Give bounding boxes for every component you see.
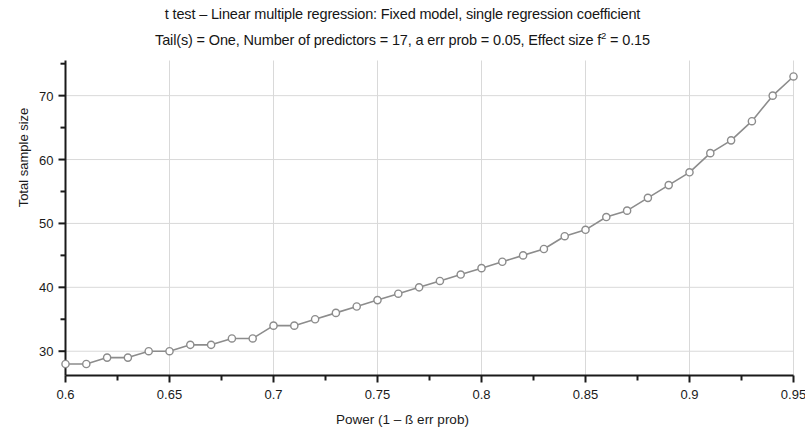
data-point-marker [457, 271, 464, 278]
x-axis-tick-label: 0.8 [472, 387, 490, 402]
data-point-marker [436, 277, 443, 284]
data-point-marker [312, 316, 319, 323]
data-point-marker [332, 309, 339, 316]
x-axis-tick-label: 0.6 [56, 387, 74, 402]
data-point-marker [624, 207, 631, 214]
data-point-marker [62, 360, 69, 367]
data-point-marker [208, 341, 215, 348]
data-point-marker [499, 258, 506, 265]
x-axis-tick-label: 0.75 [365, 387, 390, 402]
data-point-marker [644, 194, 651, 201]
data-point-marker [665, 181, 672, 188]
data-point-marker [728, 137, 735, 144]
data-point-marker [145, 348, 152, 355]
data-point-marker [540, 245, 547, 252]
series-polyline [66, 76, 794, 364]
data-point-marker [249, 335, 256, 342]
chart-container: t test – Linear multiple regression: Fix… [0, 0, 805, 438]
data-point-marker [124, 354, 131, 361]
data-point-marker [603, 213, 610, 220]
data-point-markers [62, 73, 797, 368]
data-point-marker [582, 226, 589, 233]
data-point-marker [187, 341, 194, 348]
x-axis-tick-label: 0.95 [781, 387, 805, 402]
data-series-line [66, 76, 794, 364]
data-point-marker [228, 335, 235, 342]
x-axis-tick-label: 0.9 [680, 387, 698, 402]
data-point-marker [416, 284, 423, 291]
data-point-marker [478, 265, 485, 272]
y-axis-tick-label: 40 [39, 280, 53, 295]
data-point-marker [270, 322, 277, 329]
axis-frame [66, 61, 794, 376]
data-point-marker [353, 303, 360, 310]
data-point-marker [374, 297, 381, 304]
data-point-marker [790, 73, 797, 80]
grid-lines [66, 61, 794, 376]
x-axis-tick-label: 0.65 [157, 387, 182, 402]
y-axis-tick-label: 50 [39, 216, 53, 231]
data-point-marker [561, 233, 568, 240]
y-axis-tick-label: 60 [39, 153, 53, 168]
data-point-marker [395, 290, 402, 297]
data-point-marker [686, 169, 693, 176]
data-point-marker [83, 360, 90, 367]
data-point-marker [166, 348, 173, 355]
data-point-marker [769, 92, 776, 99]
x-axis-tick-label: 0.7 [264, 387, 282, 402]
data-point-marker [291, 322, 298, 329]
data-point-marker [707, 150, 714, 157]
data-point-marker [520, 252, 527, 259]
x-axis-tick-label: 0.85 [573, 387, 598, 402]
plot-area: 30405060700.60.650.70.750.80.850.90.95 [0, 0, 805, 438]
y-axis-tick-label: 30 [39, 344, 53, 359]
axis-tick-labels: 30405060700.60.650.70.750.80.850.90.95 [39, 89, 805, 402]
data-point-marker [748, 118, 755, 125]
y-axis-tick-label: 70 [39, 89, 53, 104]
data-point-marker [104, 354, 111, 361]
